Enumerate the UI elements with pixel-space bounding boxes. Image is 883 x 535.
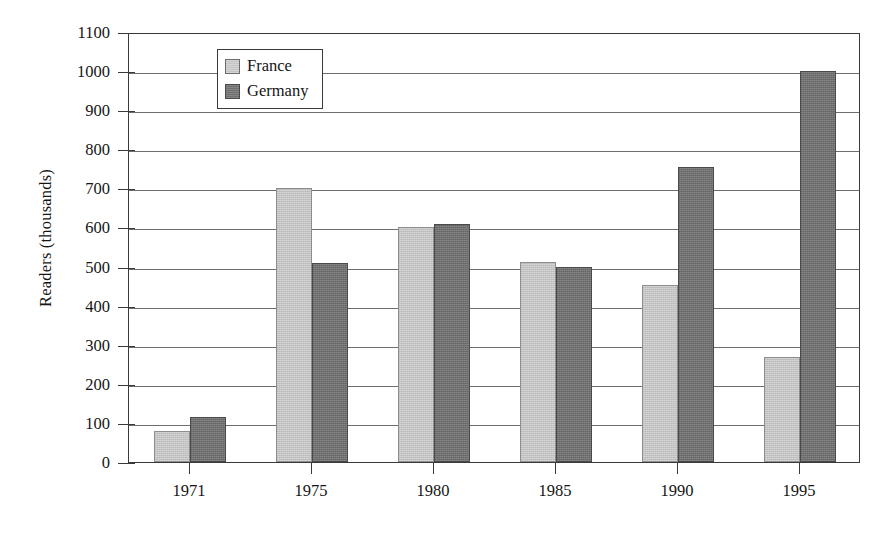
bar-france-1971 bbox=[154, 431, 190, 462]
x-tick-mark bbox=[311, 463, 312, 474]
y-tick-mark bbox=[118, 346, 135, 347]
gridline bbox=[129, 386, 859, 387]
y-tick-mark bbox=[118, 72, 135, 73]
x-tick-label: 1975 bbox=[251, 481, 371, 501]
y-tick-label: 300 bbox=[48, 336, 110, 356]
x-tick-mark bbox=[189, 463, 190, 474]
y-tick-mark bbox=[118, 385, 135, 386]
x-tick-label: 1995 bbox=[739, 481, 859, 501]
gridline bbox=[129, 425, 859, 426]
x-tick-mark bbox=[799, 463, 800, 474]
legend-swatch-france-icon bbox=[225, 59, 240, 74]
bar-germany-1985 bbox=[556, 267, 592, 462]
y-tick-label: 0 bbox=[48, 453, 110, 473]
x-tick-mark bbox=[677, 463, 678, 474]
y-tick-mark bbox=[118, 33, 135, 34]
bar-germany-1975 bbox=[312, 263, 348, 462]
gridline bbox=[129, 229, 859, 230]
x-tick-label: 1971 bbox=[129, 481, 249, 501]
y-tick-label: 700 bbox=[48, 179, 110, 199]
y-tick-label: 400 bbox=[48, 297, 110, 317]
gridline bbox=[129, 190, 859, 191]
y-tick-label: 1100 bbox=[48, 23, 110, 43]
gridline bbox=[129, 347, 859, 348]
y-tick-mark bbox=[118, 268, 135, 269]
y-tick-mark bbox=[118, 111, 135, 112]
bar-germany-1995 bbox=[800, 71, 836, 462]
x-tick-label: 1980 bbox=[373, 481, 493, 501]
y-tick-label: 200 bbox=[48, 375, 110, 395]
legend-swatch-germany-icon bbox=[225, 84, 240, 99]
x-tick-mark bbox=[555, 463, 556, 474]
legend-item-france: France bbox=[225, 54, 322, 79]
gridline bbox=[129, 269, 859, 270]
bar-chart: Readers (thousands) 01002003004005006007… bbox=[0, 0, 883, 535]
legend: France Germany bbox=[217, 49, 323, 109]
bar-france-1990 bbox=[642, 285, 678, 462]
legend-item-germany: Germany bbox=[225, 79, 322, 104]
y-tick-mark bbox=[118, 424, 135, 425]
y-tick-label: 900 bbox=[48, 101, 110, 121]
x-tick-mark bbox=[433, 463, 434, 474]
bar-germany-1990 bbox=[678, 167, 714, 462]
bar-france-1980 bbox=[398, 227, 434, 462]
y-tick-label: 1000 bbox=[48, 62, 110, 82]
y-tick-mark bbox=[118, 150, 135, 151]
bar-france-1985 bbox=[520, 262, 556, 462]
y-tick-mark bbox=[118, 463, 135, 464]
x-tick-label: 1985 bbox=[495, 481, 615, 501]
bar-germany-1980 bbox=[434, 224, 470, 462]
y-tick-mark bbox=[118, 228, 135, 229]
legend-label-france: France bbox=[247, 58, 292, 75]
gridline bbox=[129, 112, 859, 113]
gridline bbox=[129, 151, 859, 152]
y-tick-label: 600 bbox=[48, 218, 110, 238]
bar-france-1975 bbox=[276, 188, 312, 462]
y-tick-label: 800 bbox=[48, 140, 110, 160]
x-tick-label: 1990 bbox=[617, 481, 737, 501]
y-tick-label: 100 bbox=[48, 414, 110, 434]
y-tick-mark bbox=[118, 189, 135, 190]
gridline bbox=[129, 308, 859, 309]
y-tick-label: 500 bbox=[48, 258, 110, 278]
bar-germany-1971 bbox=[190, 417, 226, 462]
bar-france-1995 bbox=[764, 357, 800, 462]
legend-label-germany: Germany bbox=[247, 83, 308, 100]
y-tick-mark bbox=[118, 307, 135, 308]
